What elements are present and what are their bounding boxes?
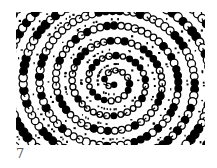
figure-number: 7 [16,146,24,161]
spiral-illustration [16,12,205,145]
spiral-pattern-graphic [16,12,205,145]
